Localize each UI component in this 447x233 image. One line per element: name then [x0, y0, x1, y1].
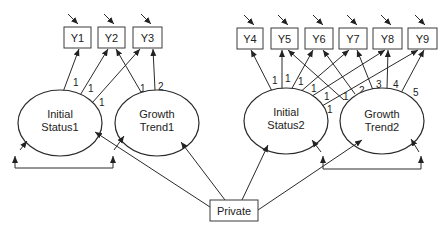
error-arrows — [68, 14, 425, 25]
latent-growth-trend1: Growth Trend1 — [115, 90, 199, 156]
latent-initial-status1: Initial Status1 — [18, 90, 102, 156]
svg-text:Y5: Y5 — [278, 33, 291, 45]
svg-text:1: 1 — [285, 73, 291, 84]
svg-text:Y4: Y4 — [243, 33, 256, 45]
svg-text:Y3: Y3 — [141, 32, 154, 44]
svg-text:5: 5 — [413, 87, 419, 98]
observed-variable-y5: Y5 — [271, 28, 298, 49]
svg-text:Y6: Y6 — [312, 33, 325, 45]
svg-text:Trend2: Trend2 — [365, 121, 399, 133]
growth-model-diagram: 1 1 1 1 2 1 1 1 1 1 1 1 2 3 4 5 Y1 — [0, 0, 447, 233]
svg-text:1: 1 — [343, 91, 349, 102]
svg-text:4: 4 — [393, 79, 399, 90]
svg-text:Status1: Status1 — [41, 121, 78, 133]
svg-text:Y9: Y9 — [416, 33, 429, 45]
svg-text:Status2: Status2 — [267, 119, 304, 131]
svg-text:Growth: Growth — [139, 108, 174, 120]
observed-variable-y3: Y3 — [133, 27, 162, 48]
observed-variable-y1: Y1 — [64, 27, 91, 48]
svg-text:1: 1 — [73, 77, 79, 88]
svg-text:1: 1 — [327, 104, 333, 115]
svg-text:Y1: Y1 — [71, 32, 84, 44]
svg-text:1: 1 — [99, 97, 105, 108]
svg-text:Private: Private — [217, 205, 251, 217]
observed-variable-y6: Y6 — [305, 28, 333, 49]
svg-text:Growth: Growth — [364, 108, 399, 120]
svg-text:Initial: Initial — [47, 108, 73, 120]
svg-text:1: 1 — [272, 75, 278, 86]
latent-growth-trend2: Growth Trend2 — [340, 88, 424, 154]
observed-variable-y7: Y7 — [339, 28, 367, 49]
svg-text:1: 1 — [88, 83, 94, 94]
observed-variable-y4: Y4 — [237, 28, 263, 49]
svg-text:Initial: Initial — [273, 106, 299, 118]
observed-variable-y2: Y2 — [98, 27, 125, 48]
svg-text:Trend1: Trend1 — [140, 121, 174, 133]
svg-text:Y7: Y7 — [346, 33, 359, 45]
svg-text:1: 1 — [324, 91, 330, 102]
covariate-private: Private — [210, 200, 258, 221]
svg-text:Y2: Y2 — [105, 32, 118, 44]
observed-variable-y9: Y9 — [408, 28, 437, 49]
svg-text:1: 1 — [298, 76, 304, 87]
svg-text:Y8: Y8 — [381, 33, 394, 45]
svg-text:1: 1 — [311, 83, 317, 94]
observed-variable-y8: Y8 — [373, 28, 402, 49]
